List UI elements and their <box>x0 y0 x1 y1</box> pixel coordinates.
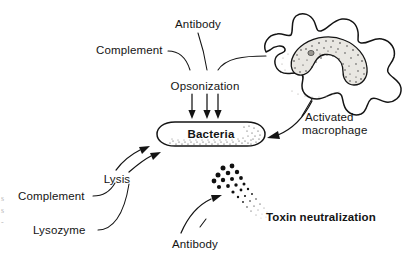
activated-macrophage-label-line1: Activated <box>305 111 354 123</box>
antibody-bottom-label: Antibody <box>172 238 218 250</box>
complement-top-label: Complement <box>96 44 163 56</box>
bacterium-cell: Bacteria <box>157 122 265 146</box>
diagram-canvas: s s - <box>0 0 414 259</box>
edge-fragment-3: - <box>1 218 4 227</box>
opsonization-label: Opsonization <box>171 80 240 92</box>
page-edge-fragments: s s - <box>1 194 4 227</box>
nucleolus <box>308 50 314 55</box>
immunology-diagram: s s - <box>0 0 414 259</box>
complement-bottom-label: Complement <box>18 190 85 202</box>
edge-fragment-2: s <box>1 206 4 215</box>
toxin-neutralization-label: Toxin neutralization <box>266 211 376 223</box>
activated-macrophage-label-line2: macrophage <box>302 124 367 136</box>
antibody-top-label: Antibody <box>175 18 221 30</box>
lysis-label: Lysis <box>104 173 131 185</box>
lysozyme-label: Lysozyme <box>33 224 86 236</box>
bacteria-label: Bacteria <box>188 128 235 140</box>
edge-fragment-1: s <box>1 194 4 203</box>
